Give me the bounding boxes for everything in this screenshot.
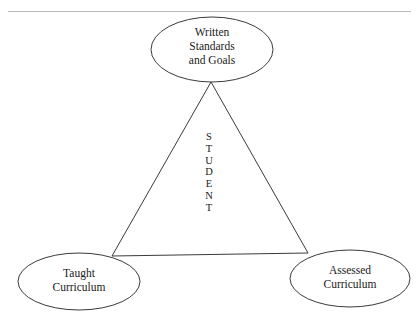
node-label-line: Curriculum — [19, 280, 139, 294]
node-label-line: Curriculum — [290, 277, 410, 291]
node-label-line: Standards — [152, 39, 272, 53]
student-letter: T — [194, 143, 224, 155]
student-letter: N — [194, 190, 224, 202]
node-label-line: Taught — [19, 266, 139, 280]
student-letter: U — [194, 155, 224, 167]
student-letter: D — [194, 166, 224, 178]
connector-left-to-right — [112, 253, 308, 256]
node-label-line: and Goals — [152, 53, 272, 67]
student-letter: T — [194, 202, 224, 214]
student-letter: S — [194, 131, 224, 143]
node-label-taught-curriculum: Taught Curriculum — [19, 266, 139, 294]
connector-top-to-right — [211, 82, 308, 253]
node-label-line: Assessed — [290, 263, 410, 277]
diagram-canvas: Written Standards and Goals Taught Curri… — [0, 0, 419, 321]
center-label-student: S T U D E N T — [194, 131, 224, 214]
node-label-line: Written — [152, 25, 272, 39]
node-label-assessed-curriculum: Assessed Curriculum — [290, 263, 410, 291]
student-letter: E — [194, 178, 224, 190]
node-label-written-standards-and-goals: Written Standards and Goals — [152, 25, 272, 67]
